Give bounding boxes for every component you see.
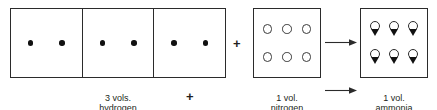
ammonia-molecule <box>369 21 380 37</box>
nitrogen-atom-circle <box>282 52 292 62</box>
ammonia-caption-line1: 1 vol. <box>383 93 405 103</box>
hydrogen-caption-line1: 3 vols. <box>105 93 131 103</box>
hydrogen-caption-line2: hydrogen <box>78 103 158 110</box>
ammonia-hydrogen-wedge-icon <box>371 57 379 64</box>
ammonia-box <box>360 8 428 78</box>
hydrogen-atom-dot <box>59 40 65 46</box>
hydrogen-box-group <box>10 8 226 78</box>
ammonia-caption-line2: ammonia <box>354 103 434 110</box>
hydrogen-box-3 <box>153 9 225 77</box>
ammonia-hydrogen-wedge-icon <box>390 57 398 64</box>
nitrogen-atom-circle <box>302 24 312 34</box>
ammonia-hydrogen-wedge-icon <box>390 29 398 36</box>
nitrogen-caption-line2: nitrogen <box>247 103 327 110</box>
ammonia-hydrogen-wedge-icon <box>409 29 417 36</box>
nitrogen-atom-circle <box>263 52 273 62</box>
ammonia-particle-grid <box>361 9 427 77</box>
plus-sign-between-reactants: + <box>233 37 241 50</box>
nitrogen-box <box>253 8 321 78</box>
hydrogen-caption: 3 vols. hydrogen <box>78 82 158 110</box>
hydrogen-atom-dot <box>171 40 177 46</box>
hydrogen-box-1 <box>11 9 82 77</box>
hydrogen-atom-dot <box>203 40 209 46</box>
hydrogen-atom-dot <box>131 40 137 46</box>
reaction-arrow-lower <box>325 86 357 95</box>
ammonia-molecule <box>388 49 399 65</box>
ammonia-hydrogen-wedge-icon <box>371 29 379 36</box>
reaction-arrow-upper <box>325 38 357 47</box>
hydrogen-box-2 <box>82 9 154 77</box>
ammonia-hydrogen-wedge-icon <box>409 57 417 64</box>
nitrogen-atom-circle <box>302 52 312 62</box>
nitrogen-atom-circle <box>282 24 292 34</box>
hydrogen-atom-dot <box>100 40 106 46</box>
nitrogen-caption-line1: 1 vol. <box>276 93 298 103</box>
nitrogen-caption: 1 vol. nitrogen <box>247 82 327 110</box>
ammonia-molecule <box>388 21 399 37</box>
ammonia-caption: 1 vol. ammonia <box>354 82 434 110</box>
nitrogen-particle-grid <box>254 9 320 77</box>
plus-sign-under-hydrogen: + <box>186 90 194 103</box>
hydrogen-atom-dot <box>28 40 34 46</box>
nitrogen-atom-circle <box>263 24 273 34</box>
ammonia-molecule <box>408 21 419 37</box>
diagram-canvas: 3 vols. hydrogen + + 1 vol. nitrogen <box>0 0 437 110</box>
ammonia-molecule <box>408 49 419 65</box>
ammonia-molecule <box>369 49 380 65</box>
